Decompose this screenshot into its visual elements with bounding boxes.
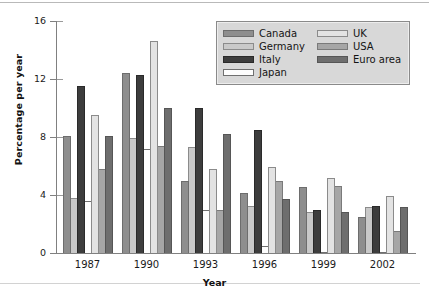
legend-item-japan[interactable]: Japan [223,66,315,79]
bar-uk-1987 [91,115,99,253]
y-tick-label-0: 0 [16,248,46,258]
y-tick-label-16: 16 [16,16,46,26]
bar-euro-area-1999 [341,212,349,253]
bar-italy-2002 [372,206,380,253]
legend-swatch-icon-canada [223,30,254,37]
bar-euro-area-1996 [282,199,290,253]
chart-legend: CanadaGermanyItalyJapan UKUSAEuro area [216,21,410,85]
bar-uk-1990 [150,41,158,253]
legend-label: UK [353,29,367,39]
bar-uk-1993 [209,169,217,253]
y-axis-title: Percentage per year [13,40,24,180]
y-tick-16 [50,21,57,22]
bar-uk-1999 [327,178,335,253]
x-tick-label-1999: 1999 [294,259,354,270]
bar-canada-2002 [358,217,366,253]
legend-label: Japan [259,68,287,78]
bar-euro-area-1987 [105,136,113,253]
bar-canada-1999 [299,187,307,253]
bar-euro-area-1990 [164,108,172,253]
legend-label: Italy [259,55,281,65]
legend-item-canada[interactable]: Canada [223,27,315,40]
legend-swatch-icon-usa [317,43,348,50]
legend-item-italy[interactable]: Italy [223,53,315,66]
bar-euro-area-2002 [400,207,408,253]
legend-item-uk[interactable]: UK [317,27,405,40]
legend-column-right: UKUSAEuro area [317,27,405,66]
bar-italy-1996 [254,130,262,253]
bar-canada-1990 [122,73,130,253]
chart-figure: 0481216 Percentage per year Year 1987199… [0,0,429,297]
legend-label: Euro area [353,55,401,65]
x-tick-label-2002: 2002 [353,259,413,270]
legend-swatch-icon-japan [223,69,254,76]
y-tick-12 [50,79,57,80]
legend-swatch-icon-uk [317,30,348,37]
x-tick-label-1996: 1996 [235,259,295,270]
legend-label: Germany [259,42,305,52]
x-axis-title: Year [0,277,429,288]
bar-canada-1996 [240,193,248,253]
legend-swatch-icon-italy [223,56,254,63]
legend-item-euro-area[interactable]: Euro area [317,53,405,66]
bar-italy-1993 [195,108,203,253]
bar-italy-1999 [313,210,321,254]
bar-euro-area-1993 [223,134,231,253]
bar-group-1990 [122,21,184,253]
x-tick-label-1993: 1993 [176,259,236,270]
y-tick-label-4: 4 [16,190,46,200]
bar-canada-1993 [181,181,189,254]
x-axis-line [56,253,416,254]
legend-column-left: CanadaGermanyItalyJapan [223,27,315,79]
x-tick-label-1990: 1990 [117,259,177,270]
y-tick-0 [50,253,57,254]
bar-canada-1987 [63,136,71,253]
legend-item-usa[interactable]: USA [317,40,405,53]
bar-italy-1987 [77,86,85,253]
y-tick-4 [50,195,57,196]
bar-group-1987 [63,21,125,253]
legend-label: USA [353,42,374,52]
x-tick-label-1987: 1987 [58,259,118,270]
legend-swatch-icon-germany [223,43,254,50]
bar-uk-1996 [268,167,276,253]
legend-swatch-icon-euro-area [317,56,348,63]
page-top-rule [0,2,429,3]
y-tick-8 [50,137,57,138]
legend-label: Canada [259,29,297,39]
bar-uk-2002 [386,196,394,253]
legend-item-germany[interactable]: Germany [223,40,315,53]
bar-italy-1990 [136,75,144,253]
